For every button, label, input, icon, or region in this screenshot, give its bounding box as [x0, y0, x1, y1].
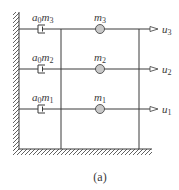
mass-label: m2 — [94, 51, 106, 65]
floor-1: a0m1 m1 u1 — [19, 91, 172, 117]
floor-2: a0m2 m2 u2 — [19, 51, 172, 77]
mass-icon — [96, 65, 105, 74]
damper-coefficient-label: a0m1 — [32, 91, 53, 105]
mass-icon — [96, 25, 105, 34]
dof-label: u3 — [162, 23, 172, 37]
dof-arrow-icon — [150, 67, 158, 72]
dof-arrow-icon — [150, 27, 158, 32]
wall-hatch — [13, 12, 19, 150]
fixed-wall-left — [13, 12, 19, 150]
mass-label: m3 — [94, 11, 106, 25]
dof-label: u1 — [162, 103, 172, 117]
mass-icon — [96, 105, 105, 114]
dof-arrow-icon — [150, 107, 158, 112]
ground-hatch — [13, 149, 152, 155]
dof-label: u2 — [162, 63, 172, 77]
three-story-shear-frame-diagram: a0m3 m3 u3 a0m2 m2 u2 a0m1 m1 u1 (a) — [0, 0, 179, 190]
damper-coefficient-label: a0m3 — [32, 11, 53, 25]
mass-label: m1 — [94, 91, 106, 105]
figure-caption: (a) — [93, 170, 106, 184]
floor-3: a0m3 m3 u3 — [19, 11, 172, 37]
fixed-ground — [13, 149, 152, 155]
damper-coefficient-label: a0m2 — [32, 51, 53, 65]
